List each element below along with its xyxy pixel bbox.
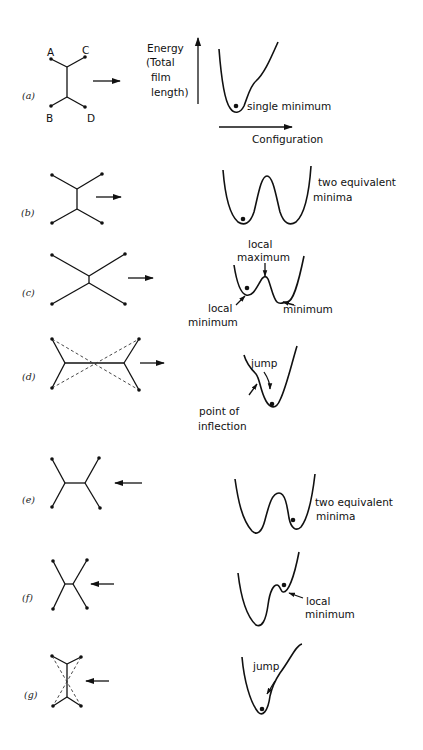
panel-label-b: (b) [21, 207, 35, 218]
state-dot-f [282, 583, 287, 588]
annotation-two-equivalent-e: two equivalent [315, 496, 393, 508]
panel-e: (e) two equivalent minima [22, 456, 393, 533]
y-axis-label-line-2: (Total [146, 56, 175, 68]
arrow-inflection-icon [249, 384, 257, 395]
state-dot-e [291, 518, 296, 523]
x-axis-label: Configuration [252, 133, 323, 145]
y-axis-label-line-1: Energy [147, 42, 184, 54]
state-dot-a [234, 104, 239, 109]
annotation-inflection: inflection [198, 420, 247, 432]
panel-d: (d) jump point of inflection [22, 337, 297, 432]
panel-label-a: (a) [22, 90, 35, 101]
panel-label-e: (e) [22, 494, 35, 505]
energy-curve-g [242, 644, 302, 714]
annotation-local-min-1: local [208, 302, 232, 314]
energy-curve-d [244, 346, 297, 407]
y-axis-label-line-4: length) [151, 86, 189, 98]
state-dot-g [260, 707, 265, 712]
panel-b: (b) two equivalent minima [21, 166, 396, 225]
panel-label-f: (f) [22, 592, 33, 603]
state-dot-c [245, 286, 250, 291]
film-energy-diagram: (a) A C B D Energy (Total film length) C… [0, 0, 423, 750]
annotation-local: local [248, 238, 272, 250]
annotation-minimum: minimum [283, 303, 333, 315]
vertex-label-c: C [82, 44, 89, 56]
vertex-label-b: B [46, 112, 53, 124]
panel-a: (a) A C B D Energy (Total film length) C… [22, 38, 331, 145]
annotation-local-f: local [306, 595, 330, 607]
panel-f: (f) local minimum [22, 552, 355, 626]
annotation-two-equivalent: two equivalent [318, 176, 396, 188]
annotation-maximum: maximum [237, 251, 290, 263]
vertex-label-a: A [47, 46, 55, 58]
panel-label-c: (c) [22, 287, 35, 298]
film-network-e [50, 456, 102, 510]
panel-c: (c) local maximum local minimum minimum [22, 238, 333, 328]
panel-g: (g) jump [24, 644, 302, 714]
vertex-label-d: D [87, 112, 95, 124]
arrow-jump-icon [264, 372, 270, 389]
arrow-local-minimum-icon [236, 296, 245, 305]
film-network-b [50, 172, 104, 225]
energy-curve-b [223, 166, 311, 224]
energy-curve-f [238, 552, 299, 626]
annotation-minima-e: minima [316, 510, 355, 522]
annotation-point-of: point of [199, 405, 240, 417]
annotation-minimum-f: minimum [305, 608, 355, 620]
film-network-c [50, 252, 127, 306]
y-axis-label-line-3: film [151, 71, 171, 83]
energy-curve-e [235, 474, 315, 533]
film-network-f [51, 558, 89, 611]
film-network-a [49, 55, 87, 109]
state-dot-d [270, 402, 275, 407]
panel-label-d: (d) [22, 371, 36, 382]
annotation-jump-d: jump [250, 357, 278, 369]
annotation-minima: minima [313, 191, 352, 203]
film-network-g [50, 654, 83, 708]
annotation-single-minimum: single minimum [247, 100, 331, 112]
state-dot-b [241, 217, 246, 222]
film-network-d [50, 337, 141, 392]
annotation-local-min-2: minimum [188, 316, 238, 328]
annotation-jump-g: jump [252, 660, 280, 672]
panel-label-g: (g) [24, 689, 38, 700]
arrow-local-minimum-icon [289, 593, 303, 598]
